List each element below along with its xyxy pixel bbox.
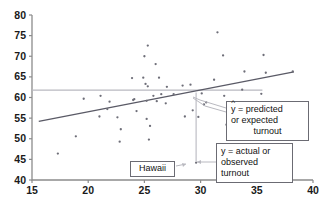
data-point bbox=[83, 98, 85, 100]
y-tick-label: 40 bbox=[14, 174, 26, 186]
data-point bbox=[165, 102, 167, 104]
data-point bbox=[152, 95, 154, 97]
data-point bbox=[135, 110, 137, 112]
data-point bbox=[143, 55, 145, 57]
arrowhead-actual bbox=[197, 160, 201, 164]
y-tick-label: 55 bbox=[14, 112, 26, 124]
callout-predicted-turnout: ^y = predicted or expected turnout bbox=[226, 101, 309, 141]
data-point bbox=[131, 77, 133, 79]
y-tick-label: 60 bbox=[14, 91, 26, 103]
hat-accent: ^ bbox=[231, 99, 236, 107]
data-point bbox=[98, 115, 100, 117]
x-tick-label: 35 bbox=[251, 184, 263, 196]
leader-line-predicted-2 bbox=[193, 98, 226, 112]
y-tick-label: 50 bbox=[14, 132, 26, 144]
data-point bbox=[75, 135, 77, 137]
y-tick-label: 65 bbox=[14, 70, 26, 82]
callout-hawaii-label: Hawaii bbox=[130, 161, 175, 177]
leader-line-predicted bbox=[193, 97, 226, 108]
callout-predicted-line-2: or expected bbox=[231, 115, 304, 126]
callout-predicted-line-3: turnout bbox=[231, 126, 304, 137]
callout-actual-line-1: y = actual or bbox=[221, 146, 288, 157]
data-point bbox=[147, 44, 149, 46]
data-point bbox=[57, 152, 59, 154]
data-point bbox=[181, 84, 183, 86]
data-point bbox=[148, 138, 150, 140]
callout-predicted-rest: = predicted bbox=[236, 104, 283, 114]
data-point bbox=[192, 109, 194, 111]
data-point bbox=[145, 118, 147, 120]
data-point bbox=[154, 63, 156, 65]
data-point bbox=[116, 116, 118, 118]
data-point bbox=[222, 54, 224, 56]
callout-actual-turnout: y = actual or observed turnout bbox=[216, 143, 293, 183]
data-point bbox=[156, 100, 158, 102]
data-point bbox=[262, 54, 264, 56]
x-tick-label: 40 bbox=[307, 184, 319, 196]
data-point bbox=[142, 77, 144, 79]
data-point bbox=[119, 140, 121, 142]
y-tick-label: 80 bbox=[14, 9, 26, 21]
data-point bbox=[292, 70, 294, 72]
x-tick-label: 15 bbox=[26, 184, 38, 196]
data-point bbox=[106, 108, 108, 110]
data-point bbox=[241, 89, 243, 91]
arrowhead-hawaii bbox=[182, 163, 186, 167]
data-point bbox=[189, 84, 191, 86]
data-point bbox=[120, 128, 122, 130]
y-tick-label: 45 bbox=[14, 153, 26, 165]
data-point bbox=[160, 93, 162, 95]
data-point bbox=[201, 92, 203, 94]
data-point bbox=[149, 125, 151, 127]
callout-actual-line-2: observed bbox=[221, 157, 288, 168]
callout-actual-line-3: turnout bbox=[221, 168, 288, 179]
data-point bbox=[166, 86, 168, 88]
data-point bbox=[133, 98, 135, 100]
data-point bbox=[108, 100, 110, 102]
data-point bbox=[147, 85, 149, 87]
data-point bbox=[145, 100, 147, 102]
scatter-plot-screenshot: 404550556065707580152025303540 ^y = pred… bbox=[0, 0, 327, 207]
data-point bbox=[144, 83, 146, 85]
x-tick-label: 30 bbox=[195, 184, 207, 196]
y-tick-label: 70 bbox=[14, 50, 26, 62]
data-point bbox=[172, 93, 174, 95]
callout-predicted-line-1: ^y = predicted bbox=[231, 104, 304, 115]
data-point bbox=[243, 70, 245, 72]
data-point bbox=[223, 95, 225, 97]
y-hat-symbol: ^y bbox=[231, 104, 236, 115]
data-point bbox=[195, 162, 197, 164]
data-point bbox=[197, 116, 199, 118]
data-point bbox=[158, 77, 160, 79]
data-point bbox=[184, 115, 186, 117]
y-tick-label: 75 bbox=[14, 29, 26, 41]
data-point bbox=[99, 95, 101, 97]
data-point bbox=[216, 31, 218, 33]
data-point bbox=[213, 79, 215, 81]
data-point bbox=[265, 72, 267, 74]
data-point bbox=[260, 93, 262, 95]
x-tick-label: 20 bbox=[82, 184, 94, 196]
x-tick-label: 25 bbox=[139, 184, 151, 196]
